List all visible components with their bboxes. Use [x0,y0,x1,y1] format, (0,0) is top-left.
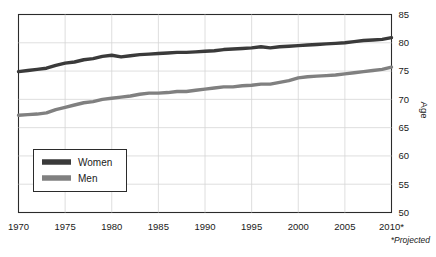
projected-footnote: *Projected [391,235,430,245]
x-tick-label-1995: 1995 [241,221,262,232]
y-tick-label-65: 65 [399,122,410,133]
x-tick-label-1975: 1975 [55,221,76,232]
y-tick-label-75: 75 [399,65,410,76]
x-tick-label-2000: 2000 [288,221,309,232]
x-axis-tick-labels: 197019751980198519901995200020052010* [8,221,404,232]
x-tick-label-1985: 1985 [148,221,169,232]
x-tick-label-1990: 1990 [194,221,215,232]
y-tick-label-55: 55 [399,179,410,190]
life-expectancy-chart: 8580757065605550 Age 1970197519801985199… [0,0,436,257]
y-tick-label-60: 60 [399,150,410,161]
x-tick-label-1980: 1980 [101,221,122,232]
y-tick-label-50: 50 [399,207,410,218]
y-tick-label-85: 85 [399,9,410,20]
legend-box [34,150,127,192]
x-tick-label-2010: 2010* [379,221,404,232]
y-tick-label-80: 80 [399,37,410,48]
x-tick-label-2005: 2005 [334,221,355,232]
chart-legend: WomenMen [34,150,127,192]
chart-canvas: 8580757065605550 Age 1970197519801985199… [0,0,436,257]
y-axis-title: Age [419,102,430,119]
legend-label-men: Men [78,173,97,184]
y-axis-tick-labels: 8580757065605550 [399,9,410,218]
y-tick-label-70: 70 [399,94,410,105]
x-tick-label-1970: 1970 [8,221,29,232]
legend-label-women: Women [78,157,112,168]
